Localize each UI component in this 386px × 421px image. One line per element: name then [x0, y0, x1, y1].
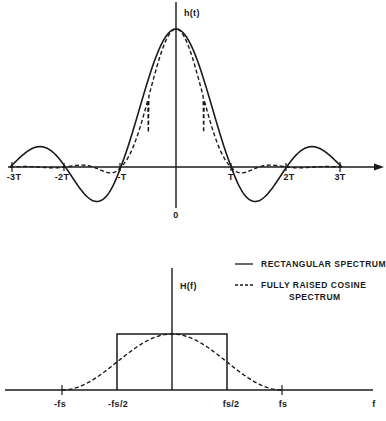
legend-dashed-label-line1: FULLY RAISED COSINE — [261, 280, 366, 290]
tick-label-neg3T: -3T — [7, 172, 21, 182]
tick-label-neg-fs-half: -fs/2 — [108, 399, 128, 409]
top-y-axis-label: h(t) — [184, 8, 200, 18]
legend-dashed-label-line2: SPECTRUM — [289, 292, 341, 302]
bottom-y-axis-label: H(f) — [180, 281, 197, 291]
tick-label-2T: 2T — [283, 172, 294, 182]
tick-label-negT: -T — [117, 172, 126, 182]
figure-canvas — [0, 0, 386, 421]
tick-label-neg-fs: -fs — [54, 399, 66, 409]
tick-label-fs-half: fs/2 — [223, 399, 240, 409]
tick-label-neg2T: -2T — [55, 172, 69, 182]
tick-label-fs: fs — [279, 399, 288, 409]
x-axis-arrow-icon — [374, 164, 384, 171]
bottom-x-axis-label: f — [372, 399, 375, 409]
legend-solid-label: RECTANGULAR SPECTRUM — [261, 259, 386, 269]
origin-label: 0 — [173, 210, 178, 220]
tick-label-3T: 3T — [334, 172, 345, 182]
tick-label-T: T — [228, 172, 234, 182]
